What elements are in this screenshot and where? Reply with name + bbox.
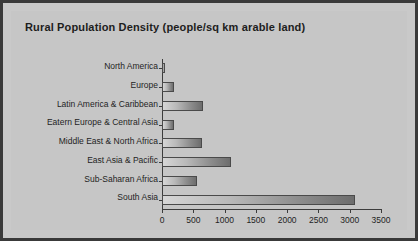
plot-area: North AmericaEuropeLatin America & Carib… bbox=[162, 59, 381, 209]
bar bbox=[162, 120, 174, 130]
x-axis-tick bbox=[256, 209, 257, 213]
bar bbox=[162, 195, 355, 205]
x-axis-tick-label: 2000 bbox=[278, 215, 297, 225]
category-label: Middle East & North Africa bbox=[59, 136, 158, 146]
category-label: East Asia & Pacific bbox=[87, 155, 158, 165]
bar-row: South Asia bbox=[162, 190, 381, 209]
x-axis-tick bbox=[287, 209, 288, 213]
x-axis-line bbox=[162, 209, 381, 210]
chart-title: Rural Population Density (people/sq km a… bbox=[25, 21, 305, 33]
category-label: North America bbox=[104, 61, 158, 71]
x-axis-tick bbox=[225, 209, 226, 213]
category-label: Sub-Saharan Africa bbox=[84, 174, 158, 184]
chart-figure: Rural Population Density (people/sq km a… bbox=[0, 0, 418, 241]
bar-row: East Asia & Pacific bbox=[162, 153, 381, 172]
x-axis-tick bbox=[381, 209, 382, 213]
bar bbox=[162, 157, 231, 167]
category-label: Eatern Europe & Central Asia bbox=[47, 117, 158, 127]
x-axis-tick-label: 3500 bbox=[372, 215, 391, 225]
bar bbox=[162, 176, 197, 186]
bar-row: Latin America & Caribbean bbox=[162, 97, 381, 116]
chart-inner-frame: Rural Population Density (people/sq km a… bbox=[11, 11, 407, 230]
x-axis-tick-label: 0 bbox=[160, 215, 165, 225]
bar bbox=[162, 82, 174, 92]
x-axis-tick-label: 3000 bbox=[340, 215, 359, 225]
bar-row: Eatern Europe & Central Asia bbox=[162, 115, 381, 134]
x-axis-tick bbox=[193, 209, 194, 213]
x-axis-tick-label: 1500 bbox=[246, 215, 265, 225]
x-axis-tick bbox=[162, 209, 163, 213]
x-axis-tick-label: 500 bbox=[186, 215, 200, 225]
bar bbox=[162, 63, 165, 73]
bar-row: Europe bbox=[162, 78, 381, 97]
x-axis-tick bbox=[350, 209, 351, 213]
category-label: Latin America & Caribbean bbox=[57, 99, 158, 109]
bar-row: Middle East & North Africa bbox=[162, 134, 381, 153]
bar bbox=[162, 138, 202, 148]
x-axis-tick-label: 2500 bbox=[309, 215, 328, 225]
x-axis-tick-label: 1000 bbox=[215, 215, 234, 225]
category-label: Europe bbox=[131, 80, 158, 90]
bar-row: Sub-Saharan Africa bbox=[162, 172, 381, 191]
bar bbox=[162, 101, 203, 111]
bar-row: North America bbox=[162, 59, 381, 78]
x-axis-tick bbox=[318, 209, 319, 213]
category-label: South Asia bbox=[117, 192, 158, 202]
